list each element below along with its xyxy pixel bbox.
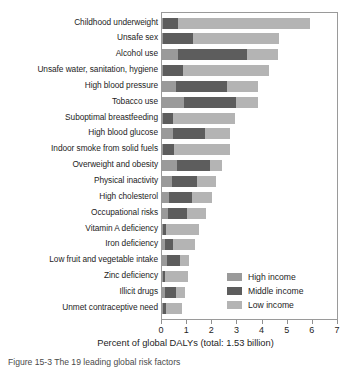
y-axis-label: Iron deficiency [0, 238, 158, 249]
bar-segment-low-income [192, 192, 212, 203]
bar-row[interactable] [162, 255, 189, 266]
bar-segment-high-income [162, 128, 173, 139]
y-axis-label: Unmet contraceptive need [0, 302, 158, 313]
y-axis-label: High blood glucose [0, 127, 158, 138]
legend-swatch-low-income [227, 301, 242, 309]
bar-segment-low-income [187, 208, 206, 219]
x-axis-title: Percent of global DALYs (total: 1.53 bil… [0, 337, 349, 350]
bar-row[interactable] [162, 176, 216, 187]
bar-segment-middle-income [168, 208, 188, 219]
bar-segment-high-income [162, 49, 178, 60]
y-axis-category-labels: Childhood underweightUnsafe sexAlcohol u… [0, 12, 158, 320]
y-axis-label: Unsafe water, sanitation, hygiene [0, 64, 158, 75]
legend-item-low-income[interactable]: Low income [227, 298, 331, 311]
bar-row[interactable] [162, 65, 269, 76]
bar-row[interactable] [162, 287, 185, 298]
bar-row[interactable] [162, 18, 310, 29]
y-axis-label: Vitamin A deficiency [0, 223, 158, 234]
bar-segment-middle-income [173, 128, 205, 139]
bar-segment-middle-income [165, 239, 173, 250]
bar-segment-low-income [176, 287, 185, 298]
legend: High income Middle income Low income [225, 268, 333, 314]
bar-row[interactable] [162, 224, 199, 235]
x-tick-label: 1 [176, 324, 196, 336]
bar-row[interactable] [162, 271, 188, 282]
legend-label-low-income: Low income [248, 300, 294, 310]
bar-segment-low-income [166, 303, 182, 314]
y-axis-label: Low fruit and vegetable intake [0, 254, 158, 265]
bar-row[interactable] [162, 208, 206, 219]
bar-row[interactable] [162, 160, 222, 171]
y-axis-label: Overweight and obesity [0, 159, 158, 170]
bar-row[interactable] [162, 97, 258, 108]
legend-item-high-income[interactable]: High income [227, 270, 331, 283]
bar-row[interactable] [162, 81, 258, 92]
bar-row[interactable] [162, 239, 195, 250]
bar-row[interactable] [162, 144, 230, 155]
legend-swatch-middle-income [227, 287, 242, 295]
bar-segment-high-income [162, 81, 176, 92]
bar-segment-high-income [162, 160, 177, 171]
bar-segment-low-income [178, 18, 311, 29]
bar-segment-low-income [227, 81, 257, 92]
bar-segment-middle-income [184, 97, 236, 108]
bar-segment-middle-income [163, 144, 174, 155]
bar-segment-middle-income [163, 33, 193, 44]
y-axis-label: High cholesterol [0, 191, 158, 202]
bar-segment-low-income [247, 49, 277, 60]
x-tick-label: 2 [201, 324, 221, 336]
bar-segment-low-income [236, 97, 258, 108]
bar-row[interactable] [162, 128, 230, 139]
legend-label-middle-income: Middle income [248, 286, 303, 296]
y-axis-label: Zinc deficiency [0, 270, 158, 281]
bar-segment-high-income [162, 176, 172, 187]
bar-segment-low-income [193, 33, 279, 44]
bar-segment-middle-income [177, 160, 210, 171]
bar-segment-low-income [183, 65, 269, 76]
x-tick-label: 7 [327, 324, 347, 336]
bar-segment-middle-income [165, 287, 176, 298]
y-axis-label: Occupational risks [0, 207, 158, 218]
x-tick-label: 4 [252, 324, 272, 336]
bar-segment-high-income [162, 192, 169, 203]
bar-segment-low-income [210, 160, 223, 171]
bar-segment-middle-income [178, 49, 248, 60]
bar-segment-low-income [165, 271, 188, 282]
bar-segment-middle-income [167, 255, 180, 266]
bar-row[interactable] [162, 49, 278, 60]
bar-segment-low-income [205, 128, 230, 139]
bar-segment-low-income [173, 239, 196, 250]
bar-segment-low-income [166, 224, 199, 235]
bar-row[interactable] [162, 33, 279, 44]
figure-container: Childhood underweightUnsafe sexAlcohol u… [0, 0, 349, 371]
bar-segment-low-income [173, 113, 235, 124]
bar-segment-middle-income [163, 113, 174, 124]
x-axis-tick-labels: 01234567 [0, 324, 349, 337]
bar-segment-middle-income [176, 81, 228, 92]
legend-swatch-high-income [227, 273, 242, 281]
bar-segment-middle-income [163, 65, 183, 76]
bar-segment-high-income [162, 97, 184, 108]
x-tick-label: 6 [302, 324, 322, 336]
y-axis-label: Illicit drugs [0, 286, 158, 297]
bar-segment-middle-income [163, 18, 178, 29]
bar-segment-low-income [197, 176, 216, 187]
bar-segment-low-income [180, 255, 190, 266]
legend-item-middle-income[interactable]: Middle income [227, 284, 331, 297]
y-axis-label: Unsafe sex [0, 32, 158, 43]
x-tick-label: 5 [277, 324, 297, 336]
bar-segment-middle-income [172, 176, 197, 187]
bar-segment-low-income [174, 144, 230, 155]
bar-row[interactable] [162, 113, 235, 124]
y-axis-label: Tobacco use [0, 96, 158, 107]
bar-row[interactable] [162, 192, 212, 203]
y-axis-label: Indoor smoke from solid fuels [0, 143, 158, 154]
x-tick-label: 3 [226, 324, 246, 336]
y-axis-label: Suboptimal breastfeeding [0, 112, 158, 123]
bar-row[interactable] [162, 303, 182, 314]
x-tick-label: 0 [151, 324, 171, 336]
bar-segment-middle-income [169, 192, 192, 203]
y-axis-label: Physical inactivity [0, 175, 158, 186]
y-axis-label: Childhood underweight [0, 17, 158, 28]
figure-caption: Figure 15-3 The 19 leading global risk f… [8, 357, 349, 369]
